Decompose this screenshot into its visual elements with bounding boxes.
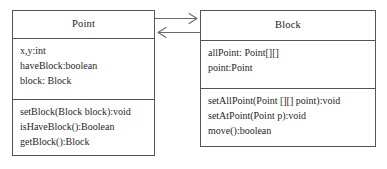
class-name-band-block: Block [201, 11, 375, 41]
attribute-item: point:Point [208, 60, 375, 75]
operation-item: setBlock(Block block):void [20, 104, 154, 119]
attribute-item: haveBlock:boolean [20, 58, 154, 73]
operations-compartment-block: setAllPoint(Point [][] point):void setAt… [201, 89, 375, 146]
attribute-item: x,y:int [20, 43, 154, 58]
uml-class-point[interactable]: Point x,y:int haveBlock:boolean block: B… [12, 10, 155, 156]
diagram-canvas: Point x,y:int haveBlock:boolean block: B… [0, 0, 387, 169]
attribute-item: allPoint: Point[][] [208, 45, 375, 60]
class-name-block: Block [275, 20, 301, 31]
class-name-band-point: Point [13, 11, 154, 39]
attributes-compartment-point: x,y:int haveBlock:boolean block: Block [13, 39, 154, 100]
operation-item: move():boolean [208, 123, 375, 138]
operation-item: setAtPoint(Point p):void [208, 108, 375, 123]
operations-compartment-point: setBlock(Block block):void isHaveBlock()… [13, 100, 154, 155]
operation-item: getBlock():Block [20, 134, 154, 149]
operation-item: isHaveBlock():Boolean [20, 119, 154, 134]
association-point-to-block[interactable] [155, 14, 197, 24]
attribute-item: block: Block [20, 73, 154, 88]
operation-item: setAllPoint(Point [][] point):void [208, 93, 375, 108]
uml-class-block[interactable]: Block allPoint: Point[][] point:Point se… [200, 10, 376, 147]
attributes-compartment-block: allPoint: Point[][] point:Point [201, 41, 375, 89]
class-name-point: Point [72, 19, 95, 30]
association-block-to-point[interactable] [158, 28, 200, 38]
